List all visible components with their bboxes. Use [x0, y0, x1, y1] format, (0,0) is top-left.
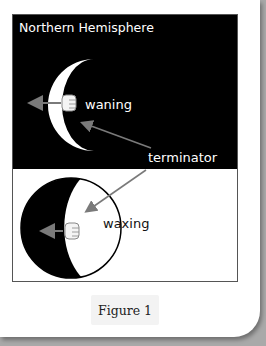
- diagram-title: Northern Hemisphere: [19, 20, 154, 35]
- hand-icon: [65, 223, 79, 239]
- figure-caption: Figure 1: [91, 295, 159, 325]
- top-panel: [13, 15, 238, 169]
- terminator-label: terminator: [148, 150, 217, 165]
- moon-phase-diagram: Northern Hemisphere waning terminator wa…: [12, 14, 238, 282]
- diagram-graphic: [13, 15, 238, 282]
- figure-card: Northern Hemisphere waning terminator wa…: [0, 0, 260, 337]
- hand-icon: [62, 95, 76, 111]
- waxing-label: waxing: [103, 216, 149, 231]
- waning-label: waning: [85, 97, 132, 112]
